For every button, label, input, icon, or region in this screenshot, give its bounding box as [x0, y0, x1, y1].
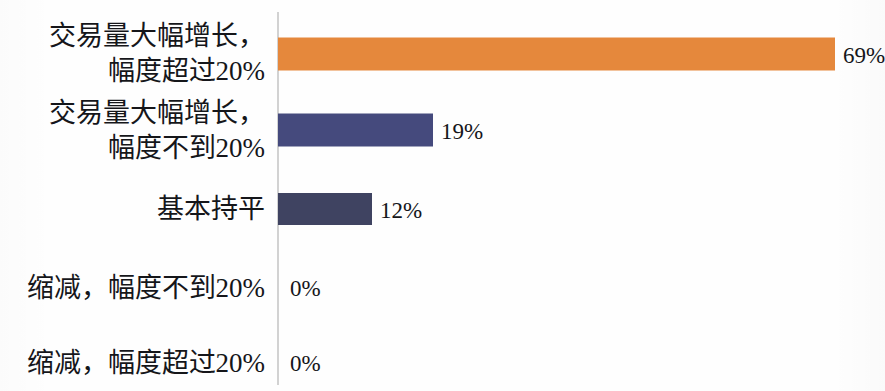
value-label-2: 19%: [441, 120, 483, 143]
bar-3: [278, 193, 372, 225]
category-label-3: 基本持平: [157, 192, 265, 227]
horizontal-bar-chart: 交易量大幅增长， 幅度超过20% 69% 交易量大幅增长， 幅度不到20% 19…: [0, 0, 885, 391]
category-label-5-line-1: 缩减，幅度超过20%: [27, 346, 266, 381]
value-label-1: 69%: [843, 44, 885, 67]
value-label-3: 12%: [380, 199, 422, 222]
category-label-1: 交易量大幅增长， 幅度超过20%: [49, 19, 265, 88]
category-label-3-line-1: 基本持平: [157, 192, 265, 227]
category-label-2: 交易量大幅增长， 幅度不到20%: [49, 96, 265, 165]
value-label-4: 0%: [290, 277, 321, 300]
category-label-2-line-1: 交易量大幅增长，: [49, 96, 265, 131]
category-label-2-line-2: 幅度不到20%: [49, 131, 265, 166]
category-label-1-line-2: 幅度超过20%: [49, 54, 265, 89]
category-label-4-line-1: 缩减，幅度不到20%: [27, 271, 266, 306]
bar-2: [278, 113, 433, 146]
bar-1: [278, 37, 835, 70]
category-label-1-line-1: 交易量大幅增长，: [49, 19, 265, 54]
category-label-5: 缩减，幅度超过20%: [27, 346, 266, 381]
category-label-4: 缩减，幅度不到20%: [27, 271, 266, 306]
value-label-5: 0%: [290, 352, 321, 375]
